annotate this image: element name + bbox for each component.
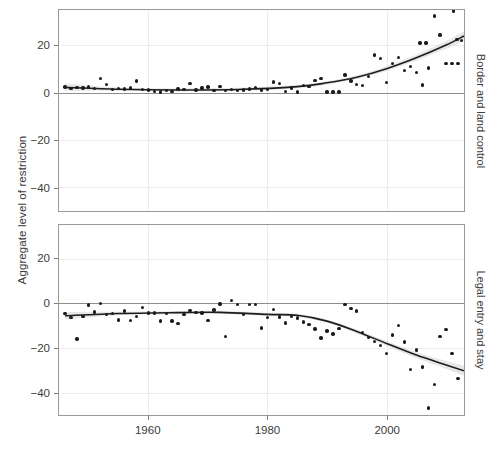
data-point — [424, 41, 427, 44]
data-point — [284, 321, 287, 324]
data-point — [343, 73, 346, 76]
data-point — [302, 84, 305, 87]
data-point — [444, 62, 447, 65]
fit-line — [65, 36, 464, 90]
data-point — [147, 311, 150, 314]
panel-legal-entry-and-stay — [58, 224, 465, 416]
facet-strip-label-bottom: Legal entry and stay — [475, 270, 487, 369]
data-point — [452, 9, 455, 12]
data-point — [331, 332, 334, 335]
y-tick-label: −20 — [30, 342, 50, 354]
data-point — [165, 312, 168, 315]
data-point — [75, 86, 78, 89]
data-point — [206, 85, 209, 88]
data-point — [117, 318, 120, 321]
data-point — [391, 62, 394, 65]
x-tick-label: 1980 — [255, 424, 281, 436]
data-point — [135, 79, 138, 82]
data-point — [75, 337, 78, 340]
data-point — [81, 86, 84, 89]
data-point — [176, 87, 179, 90]
x-tick-mark — [148, 416, 149, 420]
x-tick-label: 1960 — [135, 424, 161, 436]
data-point — [182, 313, 185, 316]
x-tick-mark — [387, 416, 388, 420]
chart-figure: Aggregate level of restriction 200−20−40… — [0, 0, 497, 462]
fit-curve-group — [59, 10, 464, 211]
data-point — [200, 311, 203, 314]
data-point — [302, 320, 305, 323]
data-point — [194, 311, 197, 314]
data-point — [418, 41, 421, 44]
data-point — [313, 327, 316, 330]
data-point — [455, 38, 458, 41]
data-point — [349, 307, 352, 310]
data-point — [296, 90, 299, 93]
data-point — [194, 88, 197, 91]
data-point — [260, 326, 263, 329]
data-point — [325, 90, 328, 93]
data-point — [427, 66, 430, 69]
data-point — [325, 329, 328, 332]
data-point — [456, 377, 459, 380]
data-point — [159, 90, 162, 93]
data-point — [403, 340, 406, 343]
y-axis-title: Aggregate level of restriction — [10, 0, 34, 420]
data-point — [450, 352, 453, 355]
y-tick-label: 20 — [37, 39, 50, 51]
data-point — [373, 53, 376, 56]
data-point — [415, 348, 418, 351]
data-point — [313, 79, 316, 82]
data-point — [242, 88, 245, 91]
data-point — [343, 303, 346, 306]
plot-area-bottom — [59, 225, 464, 415]
data-point — [290, 86, 293, 89]
data-point — [218, 85, 221, 88]
data-point — [188, 309, 191, 312]
data-point — [81, 315, 84, 318]
y-tick-label: 20 — [37, 252, 50, 264]
facet-strip-legal-entry-and-stay: Legal entry and stay — [466, 224, 496, 416]
plot-area-top — [59, 10, 464, 211]
data-point — [456, 62, 459, 65]
data-point — [200, 86, 203, 89]
data-point — [427, 406, 430, 409]
data-point — [159, 319, 162, 322]
data-point — [278, 315, 281, 318]
data-point — [153, 90, 156, 93]
y-tick-label: 0 — [44, 87, 50, 99]
facet-strip-label-top: Border and land control — [475, 53, 487, 167]
data-point — [176, 322, 179, 325]
data-point — [284, 90, 287, 93]
data-point — [170, 319, 173, 322]
data-point — [438, 335, 441, 338]
data-point — [63, 85, 66, 88]
confidence-ribbon — [65, 31, 464, 92]
data-point — [147, 88, 150, 91]
data-point — [69, 87, 72, 90]
y-tick-label: 0 — [44, 297, 50, 309]
data-point — [438, 33, 441, 36]
data-point — [129, 86, 132, 89]
data-point — [248, 87, 251, 90]
data-point — [206, 319, 209, 322]
panel-border-and-land-control — [58, 9, 465, 212]
data-point — [331, 90, 334, 93]
data-point — [278, 82, 281, 85]
data-point — [272, 80, 275, 83]
data-point — [63, 312, 66, 315]
data-point — [337, 90, 340, 93]
data-point — [123, 309, 126, 312]
data-point — [421, 83, 424, 86]
data-point — [349, 79, 352, 82]
data-point — [319, 77, 322, 80]
y-tick-label: −40 — [30, 182, 50, 194]
data-point — [153, 311, 156, 314]
facet-strip-border-and-land-control: Border and land control — [466, 9, 496, 212]
x-tick-mark — [267, 416, 268, 420]
data-point — [165, 89, 168, 92]
x-tick-label: 2000 — [374, 424, 400, 436]
data-point — [212, 89, 215, 92]
data-point — [319, 336, 322, 339]
y-tick-label: −40 — [30, 387, 50, 399]
